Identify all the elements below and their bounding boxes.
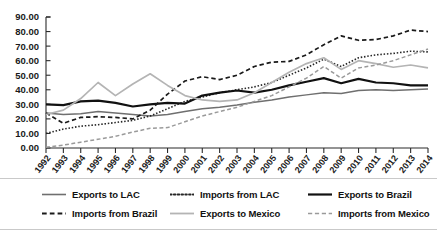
- x-axis-tick-label: 1996: [102, 153, 122, 175]
- legend-item-label: Exports to Mexico: [200, 208, 280, 219]
- x-axis-tick-label: 2012: [380, 153, 400, 175]
- legend-item-label: Imports from Mexico: [338, 208, 430, 219]
- x-axis-tick-label: 1994: [67, 153, 87, 175]
- x-axis-tick-label: 2004: [241, 153, 261, 175]
- x-axis-tick-label: 2007: [293, 153, 313, 175]
- x-axis-tick-label: 1995: [84, 153, 104, 175]
- y-axis-tick-label: 40.00: [15, 84, 39, 95]
- x-axis-tick-label: 1997: [119, 153, 139, 175]
- x-axis-tick-label: 2001: [189, 153, 209, 175]
- x-axis-tick-label: 2002: [206, 153, 226, 175]
- legend-item-exports-to-lac[interactable]: Exports to LAC: [0, 189, 152, 200]
- x-axis-tick-label: 2011: [363, 153, 383, 175]
- line-chart: 0.0010.0020.0030.0040.0050.0060.0070.008…: [0, 0, 437, 230]
- x-axis-tick-label: 2010: [345, 153, 365, 175]
- y-axis-tick-label: 10.00: [15, 128, 39, 139]
- legend-item-label: Exports to Brazil: [338, 189, 412, 200]
- chart-legend: Exports to LAC Imports from LAC Exports …: [0, 178, 437, 230]
- x-axis-tick-label: 2003: [223, 153, 243, 175]
- y-axis-tick-label: 30.00: [15, 99, 39, 110]
- legend-item-imports-from-lac[interactable]: Imports from LAC: [152, 189, 294, 200]
- legend-item-label: Imports from Brazil: [72, 208, 157, 219]
- legend-line-icon: [170, 209, 194, 218]
- legend-item-label: Exports to LAC: [72, 189, 140, 200]
- y-axis-tick-labels: 0.0010.0020.0030.0040.0050.0060.0070.008…: [15, 11, 39, 153]
- series-line: [46, 78, 428, 106]
- legend-line-icon: [170, 190, 194, 199]
- legend-line-icon: [308, 190, 332, 199]
- y-axis-tick-label: 20.00: [15, 113, 39, 124]
- y-axis-tick-label: 50.00: [15, 70, 39, 81]
- series-line: [46, 58, 428, 115]
- legend-row-2: Imports from Brazil Exports to Mexico Im…: [0, 204, 437, 223]
- x-axis-tick-label: 2014: [414, 153, 434, 175]
- x-axis-tick-label: 2006: [275, 153, 295, 175]
- plot-area: 0.0010.0020.0030.0040.0050.0060.0070.008…: [0, 0, 437, 178]
- x-axis-tick-label: 1998: [137, 153, 157, 175]
- data-series-group: [46, 30, 428, 147]
- x-axis-tick-label: 1999: [154, 153, 174, 175]
- x-axis-tick-label: 1993: [50, 153, 70, 175]
- y-axis-tick-label: 70.00: [15, 41, 39, 52]
- y-axis-tick-label: 0.00: [21, 142, 40, 153]
- legend-line-icon: [42, 209, 66, 218]
- x-axis-tick-label: 2013: [397, 153, 417, 175]
- x-axis-tick-marks: [46, 148, 428, 153]
- x-axis-tick-label: 1992: [32, 153, 52, 175]
- legend-item-exports-to-brazil[interactable]: Exports to Brazil: [294, 189, 437, 200]
- legend-item-imports-from-mexico[interactable]: Imports from Mexico: [294, 208, 437, 219]
- x-axis-tick-label: 2000: [171, 153, 191, 175]
- series-line: [46, 49, 428, 147]
- legend-item-label: Imports from LAC: [200, 189, 279, 200]
- x-axis-tick-label: 2009: [328, 153, 348, 175]
- y-axis-tick-label: 80.00: [15, 26, 39, 37]
- legend-line-icon: [42, 190, 66, 199]
- series-line: [46, 30, 428, 123]
- x-axis-tick-label: 2005: [258, 153, 278, 175]
- y-axis-tick-label: 90.00: [15, 11, 39, 22]
- series-line: [46, 89, 428, 116]
- y-axis-tick-marks: [46, 17, 51, 148]
- legend-item-exports-to-mexico[interactable]: Exports to Mexico: [152, 208, 294, 219]
- legend-item-imports-from-brazil[interactable]: Imports from Brazil: [0, 208, 152, 219]
- x-axis-tick-labels: 1992199319941995199619971998199920002001…: [32, 153, 434, 175]
- legend-row-1: Exports to LAC Imports from LAC Exports …: [0, 185, 437, 204]
- legend-line-icon: [308, 209, 332, 218]
- y-axis-tick-label: 60.00: [15, 55, 39, 66]
- x-axis-tick-label: 2008: [310, 153, 330, 175]
